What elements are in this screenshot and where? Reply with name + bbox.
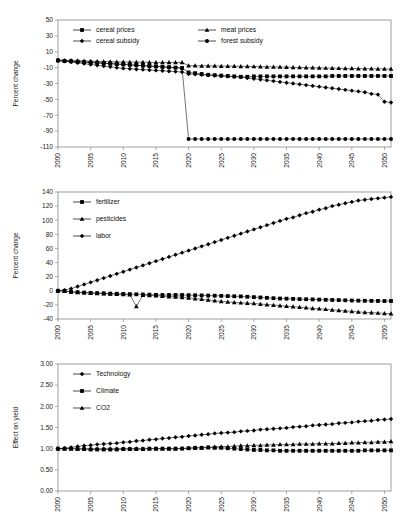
- data-point: [376, 74, 380, 78]
- data-point: [245, 448, 249, 452]
- data-point: [317, 137, 321, 141]
- data-point: [121, 440, 125, 444]
- data-point: [389, 74, 393, 78]
- data-point: [226, 137, 230, 141]
- series-cereal-subsidy: [56, 58, 393, 104]
- x-tick-label: 2045: [348, 497, 355, 512]
- data-point: [369, 419, 373, 423]
- data-point: [226, 430, 230, 434]
- data-point: [219, 137, 223, 141]
- data-point: [285, 297, 289, 301]
- data-point: [383, 299, 387, 303]
- series-line: [58, 441, 391, 448]
- data-point: [95, 278, 99, 282]
- x-tick-label: 2050: [381, 325, 388, 340]
- data-point: [284, 426, 288, 430]
- x-axis: 2000200520102015202020252030203520402045…: [54, 319, 387, 340]
- data-point: [258, 137, 262, 141]
- data-point: [134, 439, 138, 443]
- x-tick-label: 2005: [87, 325, 94, 340]
- data-point: [89, 60, 93, 64]
- legend-marker-circle: [205, 39, 209, 43]
- data-point: [291, 137, 295, 141]
- data-point: [141, 64, 145, 68]
- data-point: [383, 74, 387, 78]
- data-point: [102, 442, 106, 446]
- data-point: [370, 448, 374, 452]
- data-point: [154, 68, 158, 72]
- data-point: [350, 74, 354, 78]
- legend-label: fertilizer: [96, 198, 121, 205]
- data-point: [369, 92, 373, 96]
- x-tick-label: 2000: [54, 497, 61, 512]
- data-point: [304, 74, 308, 78]
- data-point: [311, 297, 315, 301]
- data-point: [356, 89, 360, 93]
- data-point: [389, 448, 393, 452]
- legend-label: meat prices: [221, 26, 257, 34]
- data-point: [186, 434, 190, 438]
- data-point: [310, 84, 314, 88]
- y-tick-label: 20: [46, 273, 54, 280]
- data-point: [186, 63, 191, 67]
- data-point: [356, 419, 360, 423]
- data-point: [291, 81, 295, 85]
- data-point: [271, 137, 275, 141]
- legend-marker-square: [80, 200, 84, 204]
- data-point: [330, 422, 334, 426]
- y-tick-label: 2.50: [40, 381, 53, 388]
- data-point: [271, 427, 275, 431]
- data-point: [304, 83, 308, 87]
- data-point: [330, 204, 334, 208]
- y-tick-label: 0.50: [40, 466, 53, 473]
- data-point: [324, 85, 328, 89]
- data-point: [278, 80, 282, 84]
- data-point: [154, 64, 158, 68]
- data-point: [376, 299, 380, 303]
- data-point: [173, 69, 177, 73]
- data-point: [95, 61, 99, 65]
- data-point: [239, 447, 243, 451]
- data-point: [115, 62, 119, 66]
- series-technology: [56, 417, 393, 451]
- data-point: [252, 227, 256, 231]
- y-axis: 503010-10-30-50-70-90-110: [40, 16, 58, 150]
- data-point: [337, 203, 341, 207]
- x-tick-label: 2020: [185, 153, 192, 168]
- data-point: [252, 295, 256, 299]
- x-tick-label: 2050: [381, 153, 388, 168]
- data-point: [350, 200, 354, 204]
- data-point: [95, 442, 99, 446]
- data-point: [245, 137, 249, 141]
- x-tick-label: 2040: [316, 325, 323, 340]
- data-point: [389, 137, 393, 141]
- data-point: [337, 449, 341, 453]
- data-point: [278, 219, 282, 223]
- series-forest-subsidy: [56, 58, 393, 141]
- data-point: [389, 195, 393, 199]
- data-point: [350, 137, 354, 141]
- data-point: [239, 429, 243, 433]
- data-point: [206, 137, 210, 141]
- data-point: [285, 449, 289, 453]
- data-point: [291, 297, 295, 301]
- x-tick-label: 2035: [283, 325, 290, 340]
- x-tick-label: 2015: [152, 497, 159, 512]
- data-point: [160, 69, 164, 73]
- x-tick-label: 2015: [152, 325, 159, 340]
- data-point: [265, 74, 269, 78]
- data-point: [258, 427, 262, 431]
- data-point: [324, 137, 328, 141]
- data-point: [356, 74, 360, 78]
- data-point: [173, 253, 177, 257]
- data-point: [297, 82, 301, 86]
- legend-0: cereal pricesmeat pricescereal subsidyfo…: [66, 24, 316, 50]
- data-point: [108, 274, 112, 278]
- data-point: [265, 223, 269, 227]
- data-point: [298, 449, 302, 453]
- chart-panel-percent-change-inputs: 140120100806040200-20-40Percent change20…: [0, 172, 413, 344]
- data-point: [141, 67, 145, 71]
- data-point: [310, 423, 314, 427]
- data-point: [363, 74, 367, 78]
- data-point: [200, 294, 204, 298]
